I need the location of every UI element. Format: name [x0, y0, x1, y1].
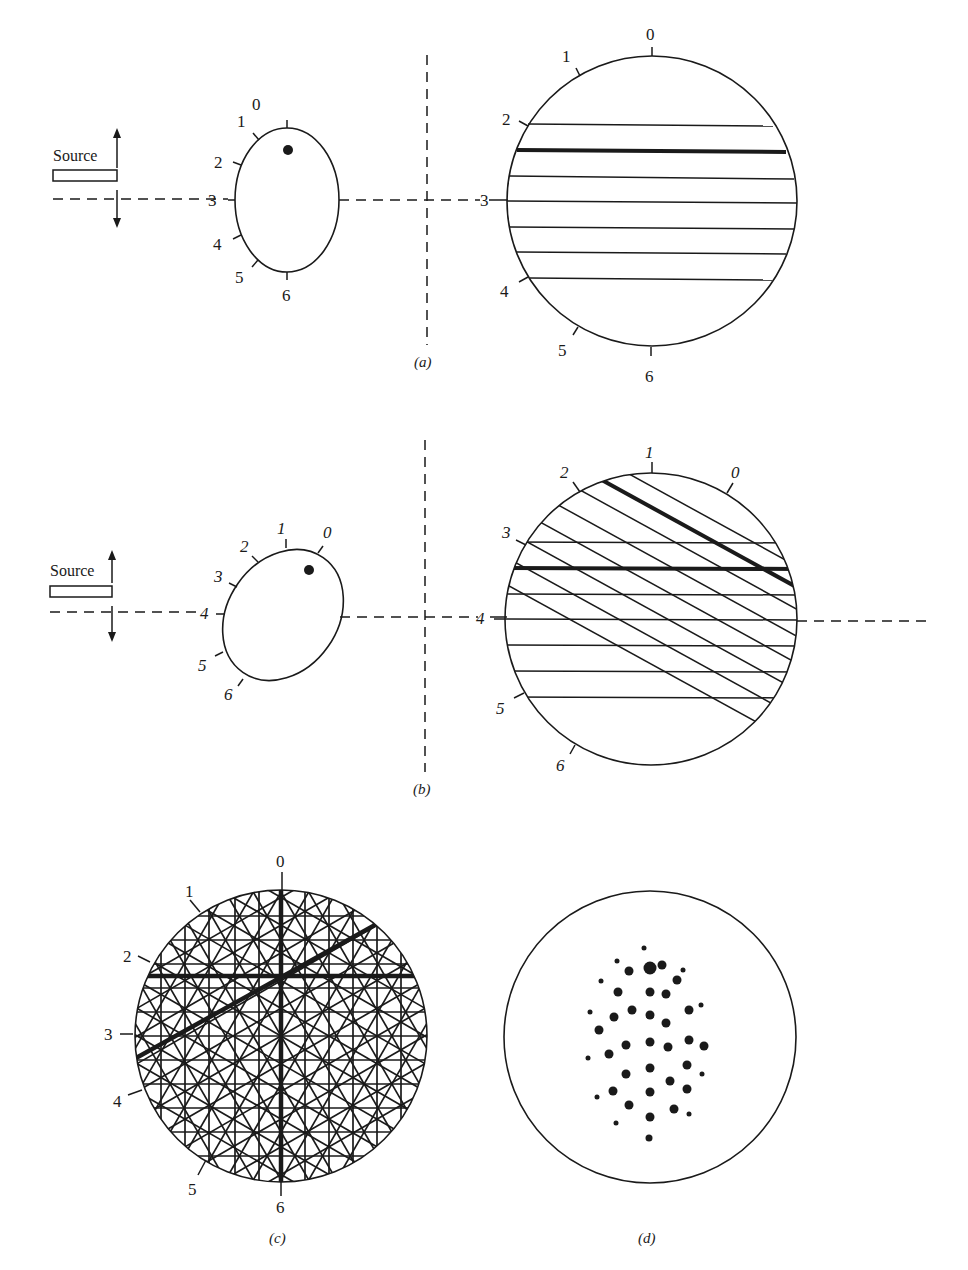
crystal-ticks: 0 1 2 3 4 5 6: [208, 95, 291, 305]
laue-spot: [673, 976, 682, 985]
crystal-tick-4: 4: [200, 604, 209, 623]
pattern-circle-a: 0 1 2 3 4 5 6: [480, 25, 797, 386]
pattern-tick-1: 1: [562, 47, 571, 66]
laue-spot: [662, 990, 671, 999]
pattern-tick-1: 1: [185, 882, 194, 901]
caption-d: (d): [638, 1230, 656, 1247]
laue-spot: [646, 988, 655, 997]
laue-spot: [683, 1061, 692, 1070]
pattern-tick-2: 2: [502, 110, 511, 129]
pattern-tick-4: 4: [476, 609, 485, 628]
arrowhead-up-icon: [108, 550, 116, 560]
laue-pattern-figure: Source 0 1 2 3 4 5 6: [0, 0, 968, 1270]
crystal-tick-4: 4: [213, 235, 222, 254]
laue-spot: [586, 1056, 591, 1061]
laue-spot: [646, 1113, 655, 1122]
laue-spot: [622, 1070, 631, 1079]
laue-spot: [625, 967, 634, 976]
crystal-tick-1: 1: [277, 519, 286, 538]
laue-spot: [699, 1003, 704, 1008]
laue-spot: [685, 1036, 694, 1045]
laue-spot: [658, 961, 667, 970]
arrowhead-down-icon: [108, 632, 116, 642]
pattern-tick-0: 0: [646, 25, 655, 44]
crystal-tick-5: 5: [198, 656, 207, 675]
laue-spot: [664, 1043, 673, 1052]
laue-spot: [610, 1013, 619, 1022]
panel-b: Source 0 1 2 3 4 5 6: [50, 370, 930, 798]
source-label: Source: [50, 562, 94, 579]
laue-spot: [615, 959, 620, 964]
crystal-ellipse: [198, 526, 368, 704]
pattern-ticks-c: 0 1 2 3 4 5 6: [104, 852, 285, 1217]
pattern-tick-0: 0: [731, 463, 740, 482]
crystal-tick-5: 5: [235, 268, 244, 287]
pattern-tick-4: 4: [500, 282, 509, 301]
slit-icon: [50, 586, 112, 597]
crystal-tick-0: 0: [252, 95, 261, 114]
laue-spot: [628, 1006, 637, 1015]
panel-a: Source 0 1 2 3 4 5 6: [53, 25, 797, 386]
panel-d: (d): [504, 891, 796, 1247]
crystal-dot: [283, 145, 293, 155]
laue-spot: [599, 979, 604, 984]
laue-spot: [625, 1101, 634, 1110]
caption-b: (b): [413, 781, 431, 798]
laue-spots: [586, 946, 709, 1142]
pattern-tick-3: 3: [104, 1025, 113, 1044]
laue-spot: [622, 1041, 631, 1050]
crystal-ticks: 0 1 2 3 4 5 6: [198, 519, 332, 704]
crystal-tick-6: 6: [224, 685, 233, 704]
laue-spot: [646, 1064, 655, 1073]
pattern-tick-3: 3: [480, 191, 489, 210]
caption-a: (a): [414, 354, 432, 371]
laue-spot: [642, 946, 647, 951]
crystal-tick-2: 2: [240, 537, 249, 556]
pattern-tick-6: 6: [556, 756, 565, 775]
pattern-tick-4: 4: [113, 1092, 122, 1111]
laue-spot: [687, 1112, 692, 1117]
laue-spot: [614, 1121, 619, 1126]
laue-spot: [666, 1077, 675, 1086]
pattern-circle-b: 0 1 2 3 4 5 6: [440, 370, 840, 775]
laue-spot: [646, 1088, 655, 1097]
crystal-tick-6: 6: [282, 286, 291, 305]
laue-spot: [683, 1085, 692, 1094]
pattern-tick-6: 6: [276, 1198, 285, 1217]
source-slit: Source: [50, 550, 116, 642]
pattern-tick-6: 6: [645, 367, 654, 386]
laue-spot: [609, 1087, 618, 1096]
crystal-tick-3: 3: [213, 567, 223, 586]
crystal-dot: [304, 565, 314, 575]
pattern-tick-5: 5: [188, 1180, 197, 1199]
pattern-tick-5: 5: [558, 341, 567, 360]
pattern-tick-5: 5: [496, 699, 505, 718]
crystal-tick-2: 2: [214, 153, 223, 172]
laue-spot: [646, 1038, 655, 1047]
source-slit: Source: [53, 128, 121, 228]
laue-spot: [681, 968, 686, 973]
caption-c: (c): [269, 1230, 286, 1247]
pattern-tick-2: 2: [560, 463, 569, 482]
laue-spot: [646, 1135, 653, 1142]
laue-spot: [700, 1072, 705, 1077]
pattern-tick-2: 2: [123, 947, 132, 966]
pattern-tick-1: 1: [645, 443, 654, 462]
laue-spot: [614, 988, 623, 997]
crystal-tick-1: 1: [237, 112, 246, 131]
crystal-tick-3: 3: [208, 191, 217, 210]
crystal-tick-0: 0: [323, 523, 332, 542]
laue-spot: [595, 1026, 604, 1035]
laue-spot: [605, 1050, 614, 1059]
laue-spot: [662, 1019, 671, 1028]
source-label: Source: [53, 147, 97, 164]
laue-spot: [646, 1011, 655, 1020]
laue-spot: [670, 1105, 679, 1114]
laue-spot: [644, 962, 657, 975]
slit-icon: [53, 170, 117, 181]
laue-spot: [588, 1010, 593, 1015]
pattern-tick-0: 0: [276, 852, 285, 871]
laue-spot: [595, 1095, 600, 1100]
laue-spot: [685, 1006, 694, 1015]
arrowhead-down-icon: [113, 218, 121, 228]
